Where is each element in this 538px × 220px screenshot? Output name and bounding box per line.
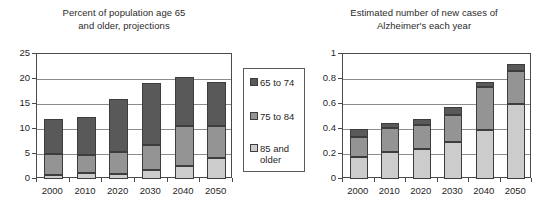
y-axis-tick-label: 1 — [331, 48, 336, 58]
chart-title-line2: Alzheimer's each year — [310, 19, 538, 32]
bar-segment-75-to-84 — [109, 152, 128, 174]
legend-item-85-older[interactable]: 85 and older — [250, 143, 289, 165]
x-axis-tick-mark — [69, 178, 70, 182]
bar-2050[interactable] — [507, 54, 525, 177]
bar-segment-85-and-older — [444, 142, 462, 180]
y-axis-tick-mark — [338, 103, 342, 104]
bar-segment-65-to-74 — [476, 82, 494, 88]
bar-segment-85-and-older — [507, 104, 525, 179]
gridline — [37, 129, 231, 130]
y-axis-tick-mark — [32, 78, 36, 79]
bar-segment-65-to-74 — [207, 82, 226, 126]
bar-segment-85-and-older — [109, 174, 128, 180]
gridline — [37, 104, 231, 105]
x-axis-tick-mark — [468, 178, 469, 182]
bar-2030[interactable] — [142, 54, 161, 177]
gridline — [37, 154, 231, 155]
bar-segment-85-and-older — [350, 157, 368, 179]
figure-root: Percent of population age 65 and older, … — [0, 0, 538, 220]
plot-area-alzheimers — [342, 53, 531, 178]
bar-segment-65-to-74 — [175, 77, 194, 126]
legend-box: 65 to 74 75 to 84 85 and older — [243, 68, 305, 172]
bar-2030[interactable] — [444, 54, 462, 177]
x-axis-tick-label-2030: 2030 — [437, 186, 469, 196]
x-axis-tick-label-2050: 2050 — [500, 186, 532, 196]
legend-swatch-75-84-icon — [250, 112, 258, 120]
bar-segment-65-to-74 — [44, 119, 63, 154]
bar-segment-75-to-84 — [507, 71, 525, 104]
bar-segment-75-to-84 — [413, 125, 431, 149]
legend-label-85-older: 85 and older — [260, 143, 289, 165]
bar-segment-75-to-84 — [444, 115, 462, 141]
chart-title-line1: Estimated number of new cases of — [350, 7, 497, 18]
bar-2000[interactable] — [350, 54, 368, 177]
x-axis-tick-label-2040: 2040 — [468, 186, 500, 196]
legend-label-75-84: 75 to 84 — [260, 111, 294, 122]
y-axis-tick-label: 0.4 — [323, 123, 336, 133]
x-axis-tick-mark — [167, 178, 168, 182]
bar-segment-75-to-84 — [142, 145, 161, 170]
plot-area-population — [36, 53, 232, 178]
bar-2000[interactable] — [44, 54, 63, 177]
x-axis-tick-label-2000: 2000 — [342, 186, 374, 196]
bar-segment-85-and-older — [77, 173, 96, 179]
legend-label-65-74: 65 to 74 — [260, 77, 294, 88]
x-axis-tick-mark — [232, 178, 233, 182]
bar-segment-75-to-84 — [207, 126, 226, 158]
y-axis-tick-mark — [338, 53, 342, 54]
bar-segment-75-to-84 — [175, 126, 194, 166]
bar-segment-75-to-84 — [350, 137, 368, 157]
x-axis-tick-mark — [134, 178, 135, 182]
x-axis-tick-mark — [374, 178, 375, 182]
x-axis-tick-mark — [500, 178, 501, 182]
bar-segment-65-to-74 — [109, 99, 128, 153]
bar-segment-85-and-older — [207, 158, 226, 180]
bar-segment-65-to-74 — [413, 119, 431, 125]
gridline — [343, 129, 530, 130]
chart-title-alzheimers: Estimated number of new cases of Alzheim… — [310, 6, 538, 32]
x-axis-tick-label-2050: 2050 — [199, 186, 232, 196]
bar-segment-85-and-older — [413, 149, 431, 179]
y-axis-tick-mark — [32, 153, 36, 154]
y-axis-tick-mark — [32, 128, 36, 129]
gridline — [37, 79, 231, 80]
legend-item-65-74[interactable]: 65 to 74 — [250, 77, 294, 88]
y-axis-tick-label: 10 — [19, 123, 30, 133]
y-axis-tick-mark — [32, 103, 36, 104]
x-axis-tick-mark — [531, 178, 532, 182]
bar-segment-85-and-older — [476, 130, 494, 179]
bar-segment-65-to-74 — [444, 107, 462, 116]
y-axis-tick-label: 25 — [19, 48, 30, 58]
bar-2020[interactable] — [413, 54, 431, 177]
bar-2010[interactable] — [77, 54, 96, 177]
y-axis-tick-label: 0.6 — [323, 98, 336, 108]
bar-segment-85-and-older — [381, 152, 399, 180]
bar-2010[interactable] — [381, 54, 399, 177]
bar-segment-65-to-74 — [142, 83, 161, 145]
bar-2050[interactable] — [207, 54, 226, 177]
legend-item-75-84[interactable]: 75 to 84 — [250, 111, 294, 122]
y-axis-tick-mark — [338, 128, 342, 129]
bar-2040[interactable] — [175, 54, 194, 177]
bar-segment-85-and-older — [44, 175, 63, 180]
x-axis-tick-mark — [437, 178, 438, 182]
y-axis-tick-label: 20 — [19, 73, 30, 83]
y-axis-tick-label: 0.2 — [323, 148, 336, 158]
y-axis-tick-label: 0 — [25, 173, 30, 183]
y-axis-tick-mark — [338, 78, 342, 79]
y-axis-tick-label: 15 — [19, 98, 30, 108]
x-axis-tick-label-2020: 2020 — [101, 186, 134, 196]
y-axis-tick-label: 0 — [331, 173, 336, 183]
bar-2040[interactable] — [476, 54, 494, 177]
y-axis-tick-label: 0.8 — [323, 73, 336, 83]
bar-segment-65-to-74 — [350, 129, 368, 137]
bar-segment-65-to-74 — [77, 117, 96, 156]
y-axis-tick-label: 5 — [25, 148, 30, 158]
x-axis-tick-label-2000: 2000 — [36, 186, 69, 196]
bar-segment-85-and-older — [175, 166, 194, 180]
bar-2020[interactable] — [109, 54, 128, 177]
bar-segment-75-to-84 — [476, 87, 494, 130]
x-axis-tick-mark — [405, 178, 406, 182]
x-axis-tick-mark — [342, 178, 343, 182]
x-axis-tick-label-2020: 2020 — [405, 186, 437, 196]
